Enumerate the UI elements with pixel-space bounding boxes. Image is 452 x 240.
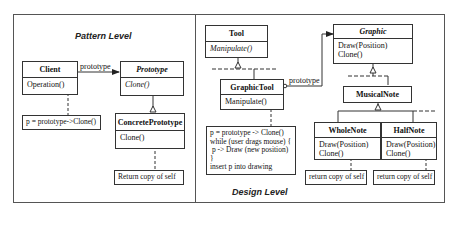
- tool-manipulate: Manipulate(): [206, 42, 267, 55]
- half-note-note: return copy of self: [373, 170, 435, 185]
- graphic-class: Graphic Draw(Position) Clone(): [333, 24, 413, 64]
- tool-class: Tool Manipulate(): [205, 25, 268, 58]
- graphic-tool-note-line: insert p into drawing: [210, 163, 292, 172]
- half-note-draw: Draw(Position): [386, 140, 432, 149]
- whole-note-methods: Draw(Position) Clone(): [315, 138, 380, 160]
- design-level-title: Design Level: [232, 187, 288, 197]
- concrete-prototype-class-name: ConcretePrototype: [116, 114, 184, 131]
- half-note-methods: Draw(Position) Clone(): [382, 138, 436, 160]
- graphic-class-name: Graphic: [334, 25, 412, 39]
- pattern-prototype-label: prototype: [80, 62, 111, 71]
- design-prototype-label: prototype: [289, 76, 320, 85]
- pattern-level-title: Pattern Level: [75, 31, 132, 41]
- musical-note-class-name: MusicalNote: [344, 87, 411, 102]
- client-operation: Operation(): [23, 78, 77, 91]
- half-note-class: HalfNote Draw(Position) Clone(): [381, 122, 437, 160]
- graphic-tool-note: p = prototype -> Clone() while (user dra…: [206, 126, 296, 175]
- client-note: p = prototype->Clone(): [22, 115, 101, 130]
- half-note-clone: Clone(): [386, 149, 432, 158]
- musical-note-class: MusicalNote: [343, 86, 412, 103]
- graphic-clone: Clone(): [338, 50, 408, 59]
- graphic-tool-class-name: GraphicTool: [221, 80, 283, 95]
- whole-note-class-name: WholeNote: [315, 123, 380, 138]
- prototype-clone: Clone(): [121, 78, 183, 91]
- concrete-note: Return copy of self: [114, 170, 184, 185]
- tool-class-name: Tool: [206, 26, 267, 42]
- graphic-methods: Draw(Position) Clone(): [334, 39, 412, 61]
- graphic-draw: Draw(Position): [338, 41, 408, 50]
- graphic-tool-manipulate: Manipulate(): [221, 95, 283, 108]
- concrete-prototype-clone: Clone(): [116, 131, 184, 144]
- client-class-name: Client: [23, 62, 77, 78]
- half-note-class-name: HalfNote: [382, 123, 436, 138]
- whole-note-clone: Clone(): [319, 149, 376, 158]
- graphic-tool-note-line: p -> Draw (new position): [210, 146, 292, 155]
- graphic-tool-class: GraphicTool Manipulate(): [220, 79, 284, 110]
- client-class: Client Operation(): [22, 61, 78, 95]
- concrete-prototype-class: ConcretePrototype Clone(): [115, 113, 185, 149]
- whole-note-note: return copy of self: [305, 170, 367, 185]
- prototype-class-name: Prototype: [121, 62, 183, 78]
- whole-note-class: WholeNote Draw(Position) Clone(): [314, 122, 381, 160]
- whole-note-draw: Draw(Position): [319, 140, 376, 149]
- prototype-class: Prototype Clone(): [120, 61, 184, 96]
